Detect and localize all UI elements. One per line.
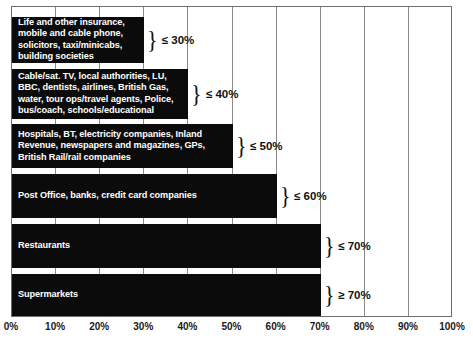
bar-row: Post Office, banks, credit card companie… [12,174,453,218]
horizontal-bar-chart: Life and other insurance, mobile and cab… [0,0,473,352]
x-tick-label: 80% [354,321,374,332]
x-tick-label: 20% [89,321,109,332]
bar-category-label: Restaurants [18,240,70,251]
value-label: ≥ 70% [338,289,371,301]
x-tick-label: 10% [45,321,65,332]
x-tick-label: 0% [4,321,18,332]
x-tick-label: 70% [310,321,330,332]
value-label: ≤ 30% [162,34,195,46]
plot-area: Life and other insurance, mobile and cab… [11,6,452,317]
x-tick-label: 40% [177,321,197,332]
x-tick-label: 60% [266,321,286,332]
bar-category-label: Cable/sat. TV, local authorities, LU, BB… [18,71,174,117]
bar[interactable]: Restaurants [12,224,321,268]
value-label: ≤ 60% [294,190,327,202]
bar-row: Supermarkets [12,274,453,316]
bar-category-label: Supermarkets [18,289,78,300]
x-axis: 0%10%20%30%40%50%60%70%80%90%100% [11,321,452,341]
bar[interactable]: Cable/sat. TV, local authorities, LU, BB… [12,69,188,119]
bar[interactable]: Supermarkets [12,274,321,316]
bar-category-label: Post Office, banks, credit card companie… [18,190,197,201]
bar-row: Hospitals, BT, electricity companies, In… [12,124,453,168]
bar-row: Life and other insurance, mobile and cab… [12,17,453,63]
x-tick-label: 50% [221,321,241,332]
bar[interactable]: Hospitals, BT, electricity companies, In… [12,124,233,168]
bar-category-label: Life and other insurance, mobile and cab… [18,17,125,63]
value-label: ≤ 70% [338,240,371,252]
bar[interactable]: Life and other insurance, mobile and cab… [12,17,144,63]
bar-row: Restaurants [12,224,453,268]
x-tick-label: 100% [439,321,465,332]
bar-category-label: Hospitals, BT, electricity companies, In… [18,129,205,163]
x-tick-label: 30% [133,321,153,332]
value-label: ≤ 50% [250,140,283,152]
x-tick-label: 90% [398,321,418,332]
value-label: ≤ 40% [206,88,239,100]
bar[interactable]: Post Office, banks, credit card companie… [12,174,277,218]
